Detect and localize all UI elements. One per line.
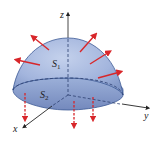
diagram-canvas: z x y S1 S2 (0, 0, 164, 141)
y-axis-label: y (143, 110, 149, 121)
x-axis (24, 106, 52, 127)
x-axis-label: x (12, 123, 18, 134)
y-axis (122, 104, 148, 108)
z-axis-label: z (59, 9, 64, 20)
